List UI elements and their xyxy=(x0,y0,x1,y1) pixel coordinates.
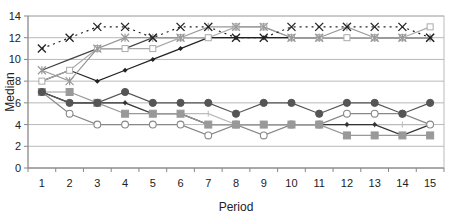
x-marker xyxy=(38,45,46,53)
x-tick-label: 15 xyxy=(424,177,436,189)
x-tick-label: 7 xyxy=(205,177,211,189)
diamond-marker xyxy=(372,122,377,127)
filled-square-marker xyxy=(399,132,406,139)
y-tick-label: 2 xyxy=(15,140,21,152)
x-tick-label: 12 xyxy=(341,177,353,189)
filled-square-marker xyxy=(316,121,323,128)
filled-square-marker xyxy=(233,121,240,128)
x-axis-title: Period xyxy=(219,200,254,214)
open-diamond-marker xyxy=(149,121,156,128)
filled-circle-marker xyxy=(371,99,378,106)
filled-square-marker xyxy=(371,132,378,139)
x-tick-label: 3 xyxy=(94,177,100,189)
filled-square-marker xyxy=(205,121,212,128)
filled-circle-marker xyxy=(177,99,184,106)
diamond-marker xyxy=(123,68,128,73)
open-square-marker xyxy=(427,24,433,30)
filled-circle-marker xyxy=(316,110,323,117)
filled-circle-marker xyxy=(94,99,101,106)
x-tick-label: 14 xyxy=(396,177,408,189)
x-tick-label: 4 xyxy=(122,177,128,189)
open-square-marker xyxy=(39,78,45,84)
open-square-marker xyxy=(150,46,156,52)
x-marker xyxy=(93,23,101,31)
open-square-marker xyxy=(67,67,73,73)
filled-square-marker xyxy=(122,110,129,117)
filled-square-marker xyxy=(66,89,73,96)
series xyxy=(39,24,433,84)
diamond-marker xyxy=(150,57,155,62)
filled-circle-marker xyxy=(232,110,239,117)
y-tick-label: 0 xyxy=(15,162,21,174)
open-diamond-marker xyxy=(260,132,267,139)
filled-square-marker xyxy=(288,121,295,128)
open-square-marker xyxy=(344,35,350,41)
x-tick-label: 9 xyxy=(261,177,267,189)
open-diamond-marker xyxy=(94,121,101,128)
series xyxy=(38,23,434,85)
filled-circle-marker xyxy=(427,99,434,106)
open-diamond-marker xyxy=(177,121,184,128)
filled-square-marker xyxy=(343,132,350,139)
diamond-marker xyxy=(344,122,349,127)
series-line xyxy=(42,92,430,125)
x-tick-label: 8 xyxy=(233,177,239,189)
open-diamond-marker xyxy=(371,110,378,117)
filled-square-marker xyxy=(177,110,184,117)
diamond-marker xyxy=(95,79,100,84)
y-tick-label: 14 xyxy=(9,10,21,22)
x-tick-label: 1 xyxy=(39,177,45,189)
y-axis-title: Median xyxy=(3,72,17,111)
filled-square-marker xyxy=(149,110,156,117)
open-diamond-marker xyxy=(66,110,73,117)
x-tick-label: 2 xyxy=(67,177,73,189)
filled-circle-marker xyxy=(205,99,212,106)
filled-circle-marker xyxy=(343,99,350,106)
open-square-marker xyxy=(205,35,211,41)
open-diamond-marker xyxy=(427,121,434,128)
axes: 02468101214123456789101112131415 xyxy=(9,10,444,189)
series-line xyxy=(42,38,430,71)
x-tick-label: 10 xyxy=(285,177,297,189)
filled-circle-marker xyxy=(121,88,128,95)
diamond-marker xyxy=(178,46,183,51)
line-chart: 02468101214123456789101112131415 Median … xyxy=(0,0,450,220)
x-tick-label: 11 xyxy=(313,177,324,189)
filled-square-marker xyxy=(260,121,267,128)
open-square-marker xyxy=(122,46,128,52)
diamond-marker xyxy=(123,100,128,105)
x-tick-label: 5 xyxy=(150,177,156,189)
filled-circle-marker xyxy=(260,99,267,106)
x-tick-label: 6 xyxy=(177,177,183,189)
open-diamond-marker xyxy=(122,121,129,128)
y-tick-label: 10 xyxy=(9,53,21,65)
y-tick-label: 12 xyxy=(9,32,21,44)
x-marker xyxy=(398,23,406,31)
filled-circle-marker xyxy=(149,99,156,106)
open-diamond-marker xyxy=(205,132,212,139)
filled-circle-marker xyxy=(66,99,73,106)
filled-circle-marker xyxy=(399,110,406,117)
filled-circle-marker xyxy=(38,88,45,95)
filled-circle-marker xyxy=(288,99,295,106)
x-tick-label: 13 xyxy=(369,177,381,189)
x-marker xyxy=(177,23,185,31)
asterisk-marker xyxy=(38,66,46,74)
filled-square-marker xyxy=(427,132,434,139)
y-tick-label: 4 xyxy=(15,119,21,131)
series xyxy=(42,38,430,71)
open-diamond-marker xyxy=(344,110,351,117)
x-marker xyxy=(315,23,323,31)
